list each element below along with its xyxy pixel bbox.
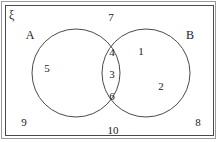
element-1: 1: [138, 46, 144, 57]
venn-diagram-canvas: ξ A B 54361279108: [0, 0, 219, 142]
element-8: 8: [195, 117, 201, 128]
set-label-a: A: [26, 29, 35, 41]
element-5: 5: [44, 63, 50, 74]
element-10: 10: [108, 125, 119, 136]
universal-set-symbol: ξ: [9, 9, 14, 21]
element-7: 7: [108, 12, 114, 23]
set-label-b: B: [186, 29, 194, 41]
element-6: 6: [109, 91, 115, 102]
element-2: 2: [158, 81, 164, 92]
element-9: 9: [21, 117, 27, 128]
element-4: 4: [109, 47, 115, 58]
element-3: 3: [109, 69, 115, 80]
